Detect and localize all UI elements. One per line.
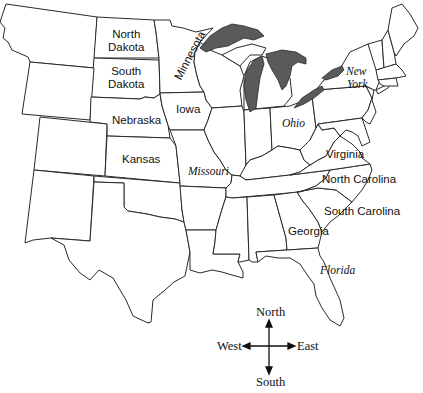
label-south-dakota: South Dakota — [108, 65, 144, 91]
label-north-carolina: North Carolina — [322, 173, 396, 186]
label-kansas: Kansas — [122, 153, 160, 166]
state-maine — [388, 4, 418, 56]
label-south-dakota-line1: South — [108, 65, 144, 78]
compass-east-label: East — [297, 339, 319, 354]
label-south-carolina: South Carolina — [324, 205, 400, 218]
label-nebraska: Nebraska — [112, 114, 161, 127]
label-new-york: New York — [346, 65, 368, 91]
label-new-york-line1: New — [346, 65, 368, 78]
compass-south-label: South — [256, 375, 285, 390]
label-ohio: Ohio — [282, 117, 305, 130]
state-colorado — [34, 117, 107, 176]
state-connecticut — [378, 78, 398, 86]
state-montana — [0, 4, 97, 68]
label-north-dakota-line2: Dakota — [108, 41, 144, 54]
compass-west-label: West — [217, 339, 242, 354]
compass-rose — [243, 320, 295, 374]
label-south-dakota-line2: Dakota — [108, 78, 144, 91]
label-florida: Florida — [320, 264, 355, 277]
state-new-mexico — [25, 170, 94, 243]
compass-north-label: North — [256, 305, 285, 320]
label-missouri: Missouri — [188, 165, 229, 178]
label-north-dakota-line1: North — [108, 28, 144, 41]
label-north-dakota: North Dakota — [108, 28, 144, 54]
label-georgia: Georgia — [288, 225, 329, 238]
label-iowa: Iowa — [176, 103, 200, 116]
label-virginia: Virginia — [326, 148, 364, 161]
label-new-york-line2: York — [346, 78, 368, 91]
us-map — [0, 0, 423, 393]
state-wyoming — [22, 62, 94, 120]
